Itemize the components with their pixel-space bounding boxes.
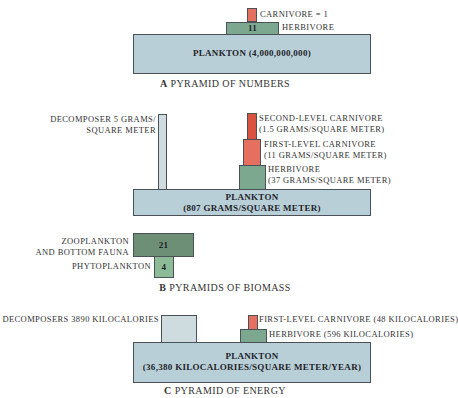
b-zooplankton-line1: ZOOPLANKTON (36, 236, 129, 247)
a-carnivore-label: CARNIVORE = 1 (260, 9, 328, 20)
b-second-carnivore-label: SECOND-LEVEL CARNIVORE (1.5 GRAMS/SQUARE… (259, 113, 385, 135)
b-first-carnivore-line1: FIRST-LEVEL CARNIVORE (264, 139, 387, 150)
b-first-carnivore-block (243, 139, 261, 166)
a-caption: A PYRAMID OF NUMBERS (0, 78, 450, 89)
b-first-carnivore-line2: (11 GRAMS/SQUARE METER) (264, 150, 387, 161)
b-plankton-block: PLANKTON (807 GRAMS/SQUARE METER) (133, 189, 371, 216)
b-phytoplankton-value: 4 (155, 262, 173, 273)
c-plankton-line1: PLANKTON (134, 351, 370, 362)
b-herbivore-line2: (37 GRAMS/SQUARE METER) (268, 175, 391, 186)
c-first-carnivore-block (248, 315, 258, 330)
b-zooplankton-line2: AND BOTTOM FAUNA (36, 247, 129, 258)
c-plankton-text: PLANKTON (36,380 KILOCALORIES/SQUARE MET… (134, 351, 370, 373)
b-phytoplankton-label: PHYTOPLANKTON (72, 261, 151, 272)
b-zooplankton-label: ZOOPLANKTON AND BOTTOM FAUNA (36, 236, 129, 258)
b-herbivore-label: HERBIVORE (37 GRAMS/SQUARE METER) (268, 164, 391, 186)
a-caption-letter: A (160, 78, 168, 89)
b-decomposer-label-line2: SQUARE METER (50, 125, 156, 136)
c-first-carnivore-label: FIRST-LEVEL CARNIVORE (48 KILOCALORIES) (259, 314, 458, 325)
b-phytoplankton-block: 4 (154, 256, 174, 278)
c-caption-text: PYRAMID OF ENERGY (172, 385, 286, 396)
b-second-carnivore-line1: SECOND-LEVEL CARNIVORE (259, 113, 385, 124)
c-caption: C PYRAMID OF ENERGY (0, 385, 450, 396)
b-herbivore-line1: HERBIVORE (268, 164, 391, 175)
a-caption-text: PYRAMID OF NUMBERS (168, 78, 290, 89)
c-caption-letter: C (164, 385, 172, 396)
b-second-carnivore-block (247, 113, 257, 140)
a-plankton-block: PLANKTON (4,000,000,000) (133, 34, 371, 74)
c-herbivore-label: HERBIVORE (596 KILOCALORIES) (269, 329, 413, 340)
b-first-carnivore-label: FIRST-LEVEL CARNIVORE (11 GRAMS/SQUARE M… (264, 139, 387, 161)
b-plankton-text: PLANKTON (807 GRAMS/SQUARE METER) (134, 192, 370, 214)
c-plankton-line2: (36,380 KILOCALORIES/SQUARE METER/YEAR) (134, 362, 370, 373)
b-plankton-line1: PLANKTON (134, 192, 370, 203)
b-zooplankton-block: 21 (133, 233, 194, 257)
a-herbivore-label: HERBIVORE (282, 22, 334, 33)
c-herbivore-block (240, 329, 267, 343)
b-decomposer-label-line1: DECOMPOSER 5 GRAMS/ (50, 114, 156, 125)
a-plankton-text: PLANKTON (4,000,000,000) (134, 48, 370, 59)
c-plankton-block: PLANKTON (36,380 KILOCALORIES/SQUARE MET… (133, 342, 371, 383)
b-zooplankton-value: 21 (134, 240, 193, 251)
b-second-carnivore-line2: (1.5 GRAMS/SQUARE METER) (259, 124, 385, 135)
b-decomposer-block (158, 114, 167, 190)
b-decomposer-label: DECOMPOSER 5 GRAMS/ SQUARE METER (50, 114, 156, 136)
b-herbivore-block (239, 165, 266, 190)
a-carnivore-block (247, 8, 257, 22)
a-herbivore-value: 11 (227, 23, 278, 34)
b-caption: B PYRAMIDS OF BIOMASS (0, 282, 450, 293)
b-plankton-line2: (807 GRAMS/SQUARE METER) (134, 203, 370, 214)
b-caption-text: PYRAMIDS OF BIOMASS (166, 282, 290, 293)
c-decomposer-block (161, 315, 197, 343)
c-decomposer-label: DECOMPOSERS 3890 KILOCALORIES (2, 314, 159, 325)
